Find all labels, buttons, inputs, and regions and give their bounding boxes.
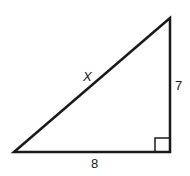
hypotenuse-label: X [82, 69, 93, 84]
horizontal-leg-label: 8 [91, 156, 98, 171]
triangle-shape [14, 18, 170, 152]
vertical-leg-label: 7 [175, 78, 182, 93]
right-triangle-diagram: X 7 8 [0, 0, 190, 176]
